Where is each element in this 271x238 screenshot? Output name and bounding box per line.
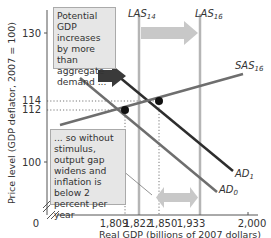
xtick-1850: 1,850 — [149, 218, 178, 229]
ytick-100: 100 — [22, 157, 41, 168]
origin-label: 0 — [33, 218, 39, 229]
ad1-label: AD1 — [234, 168, 254, 181]
ytick-112: 112 — [22, 104, 41, 115]
las-shift-arrow — [141, 21, 198, 45]
equilibrium-point-1 — [155, 97, 163, 105]
ytick-130: 130 — [22, 28, 41, 39]
annotation-box-bottom: ... so without stimulus, output gap wide… — [50, 129, 126, 205]
equilibrium-point-0 — [121, 106, 129, 114]
sas16-label: SAS16 — [235, 60, 264, 73]
x-axis-title: Real GDP (billions of 2007 dollars) — [99, 229, 261, 238]
output-gap-arrow — [156, 187, 198, 208]
las14-label: LAS14 — [128, 8, 156, 21]
y-axis-title: Price level (GDP deflator, 2007 = 100) — [6, 22, 17, 204]
ad0-label: AD0 — [218, 184, 239, 197]
annotation-box-top: Potential GDP increases by more than agg… — [53, 7, 116, 69]
chart-canvas: 130 114 112 100 0 1,809 1,822 1,850 1,93… — [0, 0, 271, 238]
leader-line — [122, 170, 152, 195]
xtick-2000: 2,000 — [238, 218, 267, 229]
xtick-1933: 1,933 — [177, 218, 206, 229]
